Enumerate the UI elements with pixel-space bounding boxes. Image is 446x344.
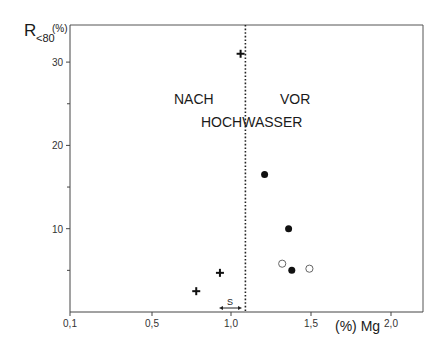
plus-marker xyxy=(237,50,245,58)
svg-text:30: 30 xyxy=(52,57,64,68)
svg-text:2,0: 2,0 xyxy=(384,318,398,329)
svg-text:R: R xyxy=(24,21,36,40)
scatter-chart: 102030 0,10,51,01,52,0 R <80 (%) (%) Mg … xyxy=(0,0,446,344)
svg-text:(%): (%) xyxy=(52,23,68,34)
data-points xyxy=(192,50,313,295)
plus-marker xyxy=(192,287,200,295)
svg-text:10: 10 xyxy=(52,224,64,235)
annotation-nach: NACH xyxy=(174,91,214,107)
plus-marker xyxy=(216,269,224,277)
svg-text:0,5: 0,5 xyxy=(145,318,159,329)
y-axis-label: R <80 (%) xyxy=(24,21,68,44)
svg-text:20: 20 xyxy=(52,140,64,151)
annotation-hochwasser: HOCHWASSER xyxy=(201,114,302,130)
filled-circle-marker xyxy=(288,267,295,274)
svg-text:1,0: 1,0 xyxy=(224,318,238,329)
y-axis-ticks: 102030 xyxy=(52,57,70,270)
open-circle-marker xyxy=(306,265,313,272)
x-axis-label: (%) Mg xyxy=(335,318,380,334)
open-circle-marker xyxy=(279,260,286,267)
plot-frame xyxy=(70,25,423,312)
s-marker: S xyxy=(219,297,242,310)
filled-circle-marker xyxy=(285,225,292,232)
svg-text:0,1: 0,1 xyxy=(63,318,77,329)
annotation-vor: VOR xyxy=(280,91,310,107)
svg-text:1,5: 1,5 xyxy=(304,318,318,329)
svg-text:(%) Mg: (%) Mg xyxy=(335,318,380,334)
svg-text:S: S xyxy=(227,297,233,307)
filled-circle-marker xyxy=(261,171,268,178)
